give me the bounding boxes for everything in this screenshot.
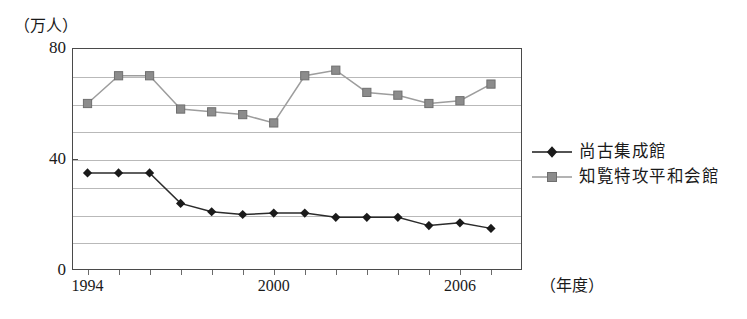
x-axis-tick-mark xyxy=(212,270,213,275)
chart-legend: 尚古集成館 知覧特攻平和会館 xyxy=(531,139,736,189)
legend-label-0: 尚古集成館 xyxy=(573,143,667,161)
y-axis-tick-label: 40 xyxy=(26,150,66,167)
x-axis-tick-mark xyxy=(150,270,151,275)
x-axis-tick-label: 1994 xyxy=(72,277,104,295)
x-axis-tick-mark xyxy=(274,270,275,275)
gridline xyxy=(73,160,521,161)
x-axis-tick-mark xyxy=(491,270,492,275)
x-axis-unit-label: （年度） xyxy=(540,277,604,295)
y-axis-tick-mark xyxy=(72,159,78,160)
plot-area xyxy=(72,48,522,270)
gridline xyxy=(73,188,521,189)
x-axis-tick-mark xyxy=(367,270,368,275)
x-axis-tick-mark xyxy=(429,270,430,275)
legend-item-chiran: 知覧特攻平和会館 xyxy=(531,164,736,189)
gridline xyxy=(73,105,521,106)
y-axis-tick-labels: 04080 xyxy=(22,48,66,270)
y-axis-unit-label: （万人） xyxy=(14,12,78,36)
legend-label-1: 知覧特攻平和会館 xyxy=(573,168,719,186)
legend-swatch-square xyxy=(531,168,573,186)
x-axis-tick-mark xyxy=(460,270,461,275)
x-axis-tick-label: 2006 xyxy=(444,277,476,295)
x-axis-tick-label: 2000 xyxy=(258,277,290,295)
gridline xyxy=(73,77,521,78)
legend-item-shokoshuseikan: 尚古集成館 xyxy=(531,139,736,164)
x-axis-tick-mark xyxy=(88,270,89,275)
x-axis-tick-mark xyxy=(336,270,337,275)
y-axis-tick-label: 0 xyxy=(26,261,66,278)
legend-swatch-diamond xyxy=(531,143,573,161)
x-axis-tick-mark xyxy=(243,270,244,275)
chart-figure: （万人） 04080 199420002006 （年度） 尚古集成館 xyxy=(0,0,747,319)
gridline xyxy=(73,216,521,217)
x-axis-tick-mark xyxy=(119,270,120,275)
y-axis-tick-label: 80 xyxy=(26,39,66,56)
x-axis-tick-mark xyxy=(181,270,182,275)
x-axis-tick-mark xyxy=(398,270,399,275)
gridline xyxy=(73,132,521,133)
x-axis-tick-mark xyxy=(305,270,306,275)
gridline xyxy=(73,243,521,244)
